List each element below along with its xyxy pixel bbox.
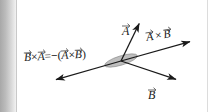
cross-product-figure: A x B : single long line with arrowheads… (0, 0, 211, 112)
label-vector-b: B (148, 86, 155, 101)
vector-b-cross-a (56, 61, 121, 80)
vector-arrow-accent-icon (75, 47, 83, 51)
vector-arrow-accent-icon (122, 23, 130, 27)
vector-accent-B1: B (24, 49, 32, 64)
vector-accent-B-main: B (148, 86, 155, 101)
vector-arrow-accent-icon (162, 26, 171, 31)
vector-accent-A2: A (61, 47, 69, 62)
vector-arrow-accent-icon (145, 29, 154, 34)
vector-arrow-accent-icon (37, 49, 45, 53)
vector-accent-A1: A (37, 48, 45, 63)
vector-a-cross-b (121, 42, 190, 61)
vector-accent-B-cross: B (162, 25, 171, 40)
label-vector-a: A (122, 22, 129, 37)
vector-accent-B2: B (74, 46, 82, 61)
vector-arrow-accent-icon (148, 87, 156, 91)
vector-arrow-accent-icon (61, 48, 69, 52)
vector-b (121, 61, 176, 79)
vector-accent-A-main: A (122, 22, 129, 37)
vector-accent-A-cross: A (145, 28, 154, 43)
vector-arrow-accent-icon (24, 50, 32, 54)
